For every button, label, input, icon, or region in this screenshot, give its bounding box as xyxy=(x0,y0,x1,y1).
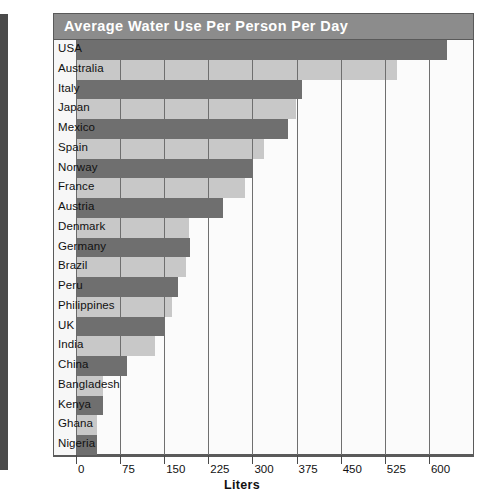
tick-label: 450 xyxy=(343,463,362,475)
chart-row: China xyxy=(54,356,473,376)
category-label: Germany xyxy=(58,240,106,252)
chart-row: Ghana xyxy=(54,415,473,435)
chart-row: Mexico xyxy=(54,119,473,139)
tick-label: 75 xyxy=(122,463,135,475)
chart-row: Spain xyxy=(54,139,473,159)
category-label: Japan xyxy=(58,101,90,113)
category-label: Nigeria xyxy=(58,437,95,449)
page-edge-strip-top-gap xyxy=(0,0,8,14)
bar-peru xyxy=(76,277,178,297)
bar-norway xyxy=(76,159,253,179)
category-label: Peru xyxy=(58,279,83,291)
bar-usa xyxy=(76,40,447,60)
category-label: Denmark xyxy=(58,220,105,232)
bar-austria xyxy=(76,198,223,218)
tick-label: 150 xyxy=(166,463,185,475)
chart-row: Bangladesh xyxy=(54,376,473,396)
x-axis-title: Liters xyxy=(0,478,484,492)
tick-mark-525 xyxy=(385,455,386,464)
bar-spain xyxy=(76,139,264,159)
chart-row: Kenya xyxy=(54,396,473,416)
category-label: Philippines xyxy=(58,299,115,311)
bar-france xyxy=(76,178,245,198)
chart-row: Italy xyxy=(54,80,473,100)
category-label: Ghana xyxy=(58,417,93,429)
chart-row: Philippines xyxy=(54,297,473,317)
bar-japan xyxy=(76,99,296,119)
chart-row: USA xyxy=(54,40,473,60)
chart-row: Nigeria xyxy=(54,435,473,455)
category-label: Norway xyxy=(58,161,98,173)
plot-area: USAAustraliaItalyJapanMexicoSpainNorwayF… xyxy=(54,40,473,455)
category-label: Italy xyxy=(58,82,80,94)
chart-row: Germany xyxy=(54,238,473,258)
chart-row: Japan xyxy=(54,99,473,119)
page-title: Average Water Use Per Person Per Day xyxy=(64,18,348,34)
tick-mark-0 xyxy=(76,455,77,464)
chart-row: Australia xyxy=(54,60,473,80)
category-label: Kenya xyxy=(58,398,91,410)
category-label: UK xyxy=(58,319,74,331)
x-axis-ticks: 075150225300375450525600 xyxy=(76,455,476,477)
bar-brazil xyxy=(76,257,186,277)
tick-mark-450 xyxy=(341,455,342,464)
chart-title-bar: Average Water Use Per Person Per Day xyxy=(53,13,474,40)
tick-label: 375 xyxy=(299,463,318,475)
chart-row: France xyxy=(54,178,473,198)
category-label: USA xyxy=(58,42,82,54)
tick-label: 600 xyxy=(431,463,450,475)
category-label: Bangladesh xyxy=(58,378,120,390)
tick-mark-300 xyxy=(252,455,253,464)
category-label: Australia xyxy=(58,62,104,74)
bar-india xyxy=(76,336,155,356)
chart-row: Norway xyxy=(54,159,473,179)
category-label: Mexico xyxy=(58,121,95,133)
tick-label: 525 xyxy=(387,463,406,475)
tick-mark-225 xyxy=(208,455,209,464)
category-label: India xyxy=(58,338,83,350)
tick-label: 0 xyxy=(78,463,84,475)
category-label: China xyxy=(58,358,89,370)
water-use-bar-chart: Average Water Use Per Person Per Day USA… xyxy=(0,0,484,497)
bar-uk xyxy=(76,317,164,337)
chart-row: India xyxy=(54,336,473,356)
category-label: Spain xyxy=(58,141,88,153)
chart-row: Brazil xyxy=(54,257,473,277)
category-label: Brazil xyxy=(58,259,87,271)
bar-italy xyxy=(76,80,302,100)
bar-australia xyxy=(76,60,397,80)
tick-label: 225 xyxy=(210,463,229,475)
tick-mark-150 xyxy=(164,455,165,464)
chart-row: Austria xyxy=(54,198,473,218)
bar-mexico xyxy=(76,119,288,139)
chart-row: Denmark xyxy=(54,218,473,238)
chart-row: Peru xyxy=(54,277,473,297)
tick-mark-600 xyxy=(429,455,430,464)
category-label: Austria xyxy=(58,200,95,212)
chart-row: UK xyxy=(54,317,473,337)
page-edge-strip xyxy=(0,0,8,497)
tick-label: 300 xyxy=(254,463,273,475)
tick-mark-375 xyxy=(297,455,298,464)
category-label: France xyxy=(58,180,94,192)
tick-mark-75 xyxy=(120,455,121,464)
